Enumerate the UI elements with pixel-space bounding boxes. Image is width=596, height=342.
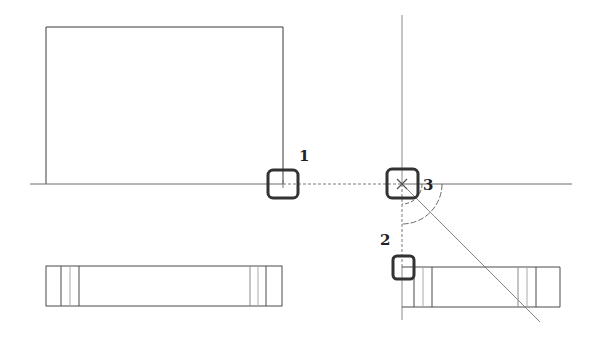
- front-view: [46, 27, 283, 184]
- snap-label-1: 1: [299, 147, 309, 165]
- side-view: [402, 267, 560, 307]
- snap-label-3: 3: [423, 176, 433, 194]
- top-view: [46, 266, 282, 306]
- cad-drawing-canvas[interactable]: [0, 0, 596, 342]
- snap-label-2: 2: [380, 231, 390, 249]
